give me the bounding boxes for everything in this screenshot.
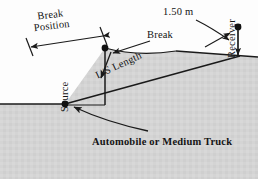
vehicle-label: Automobile or Medium Truck — [92, 136, 232, 147]
source-label: Source — [59, 82, 70, 112]
receiver-label: Receiver — [226, 19, 237, 58]
receiver-height-label: 1.50 m — [163, 6, 193, 17]
break-label: Break — [147, 29, 173, 40]
break-point-marker — [102, 45, 109, 52]
receiver-height-leader-line — [196, 20, 229, 40]
break-leader-line — [113, 41, 150, 53]
figure-canvas: Break Position Break 1.50 m L/S Length R… — [0, 0, 258, 179]
break-position-label: Break Position — [32, 7, 70, 33]
break-position-dimension-arrow — [31, 36, 103, 47]
ground-mass — [0, 48, 258, 179]
